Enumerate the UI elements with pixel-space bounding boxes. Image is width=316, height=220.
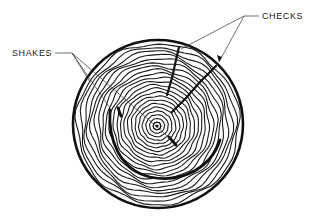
- log-cross-section-diagram: SHAKES CHECKS: [0, 0, 316, 220]
- check-crack-2: [172, 66, 216, 112]
- log-drawing: [0, 0, 316, 220]
- checks-leader-1: [181, 16, 244, 49]
- shakes-label: SHAKES: [12, 49, 52, 58]
- checks-label: CHECKS: [262, 12, 303, 21]
